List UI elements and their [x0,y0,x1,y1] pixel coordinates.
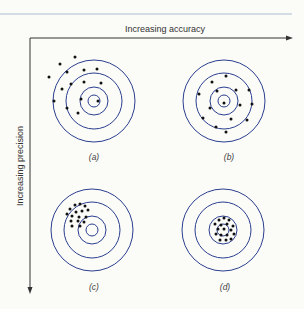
target-ring [53,60,135,142]
panel-label-a: (a) [89,152,100,162]
shot-dot [66,213,69,216]
shot-dot [66,107,69,110]
panel-label-b: (b) [224,152,235,162]
shot-dot [232,225,235,228]
shot-dot [215,126,218,129]
x-axis-label: Increasing accuracy [125,24,206,34]
shot-dot [69,208,72,211]
shot-dot [202,117,205,120]
shot-dot [219,239,222,242]
shot-dot [230,238,233,241]
shot-dot [70,220,73,223]
shot-dot [59,63,62,66]
panel-label-c: (c) [89,282,99,292]
shot-dot [79,225,82,228]
shot-dot [220,234,223,237]
shot-dot [198,93,201,96]
shot-dot [226,234,229,237]
shot-dot [79,203,82,206]
target-ring [210,87,238,115]
target-a [48,56,136,143]
target-c [51,189,133,271]
y-axis-label: Increasing precision [15,126,25,206]
shot-dot [77,220,80,223]
shot-dot [246,119,249,122]
shot-dot [225,239,228,242]
accuracy-precision-diagram: Increasing accuracy Increasing precision… [0,0,304,309]
panel-label-d: (d) [220,282,231,292]
target-ring [218,95,230,107]
shot-dot [70,83,73,86]
shot-dot [85,216,88,219]
shot-dot [84,205,87,208]
target-d [182,189,264,271]
shot-dot [74,56,77,59]
shot-dot [223,217,226,220]
shot-dot [96,68,99,71]
shot-dot [80,98,83,101]
shot-dot [71,215,74,218]
shot-dot [226,223,229,226]
target-ring [51,189,133,271]
target-ring [86,224,98,236]
shot-dot [214,223,217,226]
shot-dot [97,100,100,103]
target-ring [80,87,108,115]
shot-dot [225,75,228,78]
shot-dot [230,229,233,232]
shot-dot [77,112,80,115]
shot-dot [87,209,90,212]
shot-dot [215,233,218,236]
target-b [183,60,265,142]
shot-dot [209,107,212,110]
shot-dot [220,224,223,227]
shot-dot [223,228,226,231]
shot-dot [53,100,56,103]
shot-dot [216,90,219,93]
shot-dot [83,81,86,84]
shot-dot [100,82,103,85]
shot-dot [230,118,233,121]
target-ring [66,73,122,129]
shot-dot [74,204,77,207]
shot-dot [233,233,236,236]
shot-dot [218,219,221,222]
shot-dot [251,103,254,106]
target-ring [183,60,265,142]
shot-dot [66,71,69,74]
target-ring [78,216,106,244]
target-ring [64,202,120,258]
shot-dot [239,104,242,107]
target-ring [196,73,252,129]
shot-dot [78,216,81,219]
shot-dot [235,89,238,92]
shot-dot [83,69,86,72]
shot-dot [225,131,228,134]
shot-dot [83,221,86,224]
y-axis-arrowhead-icon [28,287,33,294]
shot-dot [248,89,251,92]
shot-dot [211,81,214,84]
shot-dot [61,88,64,91]
shot-dot [228,219,231,222]
shot-dot [81,210,84,213]
shot-dot [48,76,51,79]
shot-dot [217,228,220,231]
shot-dot [223,102,226,105]
x-axis-arrowhead-icon [286,36,293,41]
shot-dot [75,211,78,214]
shot-dot [71,225,74,228]
